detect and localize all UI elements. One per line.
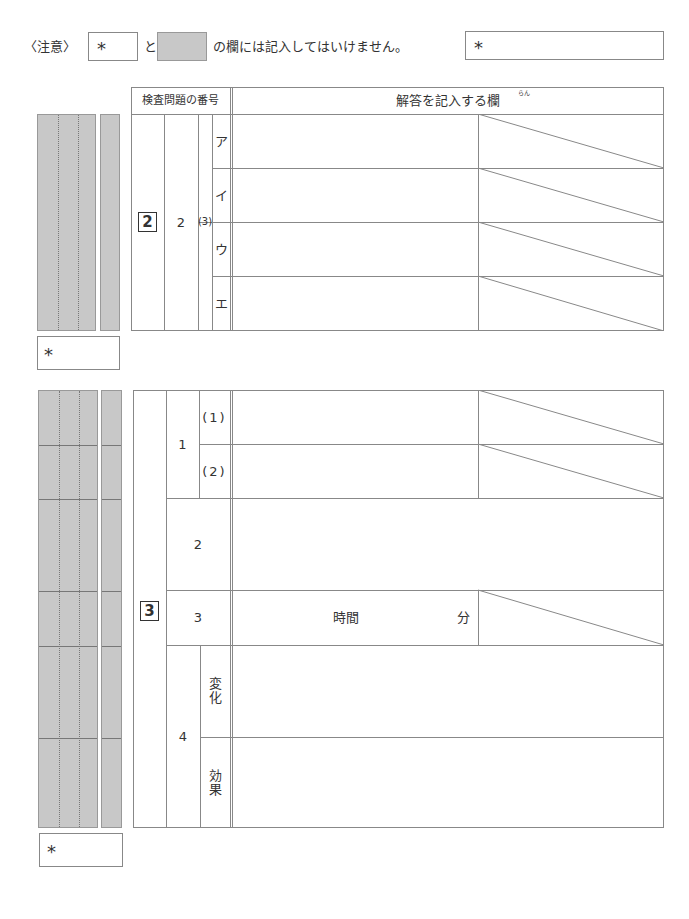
notice-and-text: と [144, 40, 157, 53]
row-label-i: イ [212, 168, 230, 222]
question-2-number: 2 [164, 214, 198, 230]
answer-field-2-e[interactable] [233, 277, 477, 330]
grading-row-divider [102, 646, 121, 647]
question-3-label: 3 [166, 590, 230, 645]
diagonal-strike-marks [478, 390, 664, 645]
row-label-a: ア [212, 114, 230, 168]
double-divider [230, 87, 231, 331]
part-effect-label: 効果 [200, 737, 230, 828]
dotted-divider [58, 115, 59, 330]
dotted-divider [78, 115, 79, 330]
answer-field-3-3[interactable]: 時間 分 [233, 591, 477, 644]
star-symbol: * [44, 344, 53, 365]
question-4-label: 4 [166, 645, 200, 828]
part-1-label: (1) [199, 390, 230, 444]
grading-row-divider [39, 646, 97, 647]
grading-row-divider [102, 445, 121, 446]
answer-field-2-i[interactable] [233, 169, 477, 221]
sample-gray-box [157, 32, 207, 61]
star-symbol: * [474, 37, 483, 58]
double-divider [230, 390, 231, 828]
section-2-number: 2 [131, 210, 164, 234]
notice-label: 〈注意〉 [24, 40, 76, 53]
section-3-score-box: * [39, 833, 123, 867]
question-1-label: 1 [166, 436, 199, 452]
dotted-divider [79, 391, 80, 827]
notice-message: の欄には記入してはいけません。 [213, 40, 408, 53]
answer-field-2-a[interactable] [233, 115, 477, 167]
part-change-label: 変化 [200, 645, 230, 737]
grading-row-divider [102, 591, 121, 592]
grading-row-divider [102, 499, 121, 500]
section-3-number: 3 [133, 599, 166, 623]
minutes-unit: 分 [457, 611, 470, 624]
answer-column-header: 解答を記入する欄 [232, 87, 664, 114]
grading-row-divider [39, 445, 97, 446]
answer-field-2-u[interactable] [233, 223, 477, 275]
star-symbol: * [97, 38, 106, 59]
hours-unit: 時間 [333, 611, 359, 624]
star-symbol: * [47, 841, 56, 862]
grading-area-3-main [38, 390, 98, 828]
question-number-header: 検査問題の番号 [131, 87, 230, 114]
answer-field-3-1-1[interactable] [233, 391, 477, 443]
grading-area-2-main [37, 114, 96, 331]
grading-row-divider [102, 738, 121, 739]
grading-row-divider [39, 738, 97, 739]
section-2-score-box: * [37, 336, 120, 370]
answer-field-3-4-change[interactable] [233, 646, 663, 736]
answer-field-3-1-2[interactable] [233, 445, 477, 497]
grading-area-3-side [101, 390, 122, 828]
grading-area-2-side [100, 114, 120, 331]
answer-field-3-4-effect[interactable] [233, 738, 663, 827]
question-2-label: 2 [166, 498, 230, 590]
total-score-box: * [465, 31, 664, 60]
row-label-u: ウ [212, 222, 230, 276]
sample-star-box: * [88, 32, 138, 61]
ruby-annotation: らん [518, 88, 530, 97]
grading-row-divider [39, 591, 97, 592]
dotted-divider [59, 391, 60, 827]
row-label-e: エ [212, 276, 230, 331]
diagonal-strike-marks [478, 114, 664, 331]
part-3-label: (3) [198, 216, 212, 228]
grading-row-divider [39, 499, 97, 500]
part-2-label: (2) [199, 444, 230, 498]
